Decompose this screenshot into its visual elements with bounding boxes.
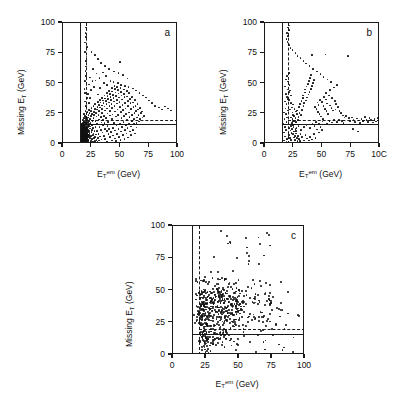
data-point	[82, 123, 84, 125]
data-point	[313, 79, 315, 81]
data-point	[264, 293, 266, 295]
data-point	[123, 89, 125, 91]
data-point	[298, 125, 300, 127]
data-point	[305, 100, 307, 102]
data-point	[85, 142, 87, 143]
data-point	[248, 260, 250, 262]
data-point	[82, 134, 84, 136]
data-point	[320, 126, 322, 128]
data-point	[323, 105, 325, 107]
data-point	[323, 96, 325, 98]
data-point	[224, 300, 226, 302]
data-point	[107, 113, 109, 115]
data-point	[264, 304, 266, 306]
data-point	[207, 341, 209, 343]
data-point	[132, 88, 134, 90]
data-point	[96, 130, 98, 132]
data-point	[348, 117, 350, 119]
data-point	[318, 123, 320, 125]
data-point	[212, 288, 214, 290]
panel-b-x-tick-label: 0	[262, 149, 267, 159]
data-point	[99, 107, 101, 109]
data-point	[95, 126, 97, 128]
data-point	[82, 142, 84, 143]
data-point	[310, 88, 312, 90]
data-point	[255, 302, 257, 304]
data-point	[112, 94, 114, 96]
data-point	[238, 279, 240, 281]
data-point	[82, 142, 84, 143]
data-point	[338, 119, 340, 121]
data-point	[221, 314, 223, 316]
data-point	[195, 299, 197, 301]
data-point	[133, 118, 135, 120]
data-point	[311, 54, 313, 56]
panel-a-x-axis-title: ETem (GeV)	[62, 168, 175, 179]
data-point	[268, 295, 270, 297]
data-point	[220, 302, 222, 304]
data-point	[97, 101, 99, 103]
data-point	[292, 104, 294, 106]
data-point	[291, 107, 293, 109]
data-point	[297, 135, 299, 137]
data-point	[298, 138, 300, 140]
data-point	[92, 127, 94, 129]
data-point	[280, 302, 282, 304]
data-point	[210, 350, 212, 352]
data-point	[214, 285, 216, 287]
data-point	[295, 130, 297, 132]
data-point	[136, 127, 138, 129]
data-point	[95, 120, 97, 122]
data-point	[303, 126, 305, 128]
data-point	[263, 341, 265, 343]
data-point	[239, 293, 241, 295]
data-point	[193, 314, 195, 316]
panel-c-x-tick-label: 50	[233, 360, 242, 370]
data-point	[201, 316, 203, 318]
data-point	[213, 291, 215, 293]
data-point	[128, 92, 130, 94]
data-point	[85, 122, 87, 124]
data-point	[300, 114, 302, 116]
data-point	[126, 119, 128, 121]
data-point	[283, 132, 285, 134]
data-point	[124, 96, 126, 98]
data-point	[82, 142, 84, 143]
data-point	[272, 296, 274, 298]
data-point	[323, 76, 325, 78]
data-point	[288, 44, 290, 46]
panel-c-x-axis-title: ETem (GeV)	[172, 378, 302, 389]
data-point	[91, 113, 93, 115]
data-point	[83, 142, 85, 143]
data-point	[208, 352, 210, 354]
panel-a-y-tick-label: 75	[46, 47, 55, 57]
data-point	[246, 247, 248, 249]
data-point	[202, 313, 204, 315]
data-point	[221, 309, 223, 311]
data-point	[300, 57, 302, 59]
data-point	[367, 121, 369, 123]
panel-b-x-tick	[321, 143, 322, 147]
data-point	[84, 142, 86, 143]
data-point	[261, 312, 263, 314]
data-point	[84, 80, 86, 82]
data-point	[198, 311, 200, 313]
data-point	[216, 288, 218, 290]
data-point	[223, 295, 225, 297]
data-point	[113, 97, 115, 99]
data-point	[111, 91, 113, 93]
data-point	[114, 85, 116, 87]
data-point	[210, 331, 212, 333]
panel-a-x-tick-label: 75	[144, 149, 153, 159]
data-point	[106, 103, 108, 105]
data-point	[113, 81, 115, 83]
data-point	[82, 142, 84, 143]
data-point	[114, 88, 116, 90]
data-point	[114, 105, 116, 107]
data-point	[209, 345, 211, 347]
data-point	[100, 129, 102, 131]
data-point	[305, 134, 307, 136]
data-point	[93, 137, 95, 139]
data-point	[109, 93, 111, 95]
panel-c-y-tick	[168, 321, 172, 322]
